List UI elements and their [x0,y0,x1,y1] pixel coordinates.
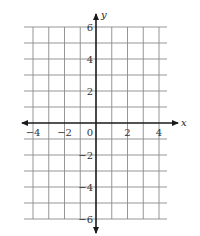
coordinate-plane: x y −4−2024 642−2−4−6 [0,0,200,236]
x-tick-label: −4 [26,127,41,138]
x-tick-label: 2 [124,127,130,138]
x-tick-labels: −4−2024 [26,127,163,138]
x-axis-label: x [181,117,187,128]
y-tick-label: 6 [87,22,93,33]
x-tick-label: 0 [87,127,93,138]
y-tick-label: −4 [78,182,93,193]
y-tick-label: 4 [87,54,93,65]
y-tick-label: 2 [87,86,93,97]
y-axis-label: y [100,9,107,20]
y-tick-label: −2 [78,150,93,161]
x-tick-label: −2 [57,127,72,138]
x-tick-label: 4 [156,127,162,138]
y-tick-label: −6 [78,214,93,225]
